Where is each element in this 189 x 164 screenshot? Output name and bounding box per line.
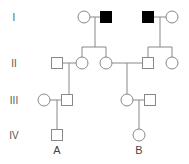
affected-male-square-icon [101, 12, 112, 23]
individual-label-a: A [53, 144, 60, 156]
female-circle-icon [166, 57, 178, 69]
pedigree-chart [0, 0, 189, 164]
male-square-icon [145, 95, 156, 106]
female-circle-icon [100, 57, 112, 69]
female-circle-icon [166, 11, 178, 23]
male-square-icon [143, 58, 154, 69]
generation-label: I [13, 12, 16, 23]
individual-label-b: B [135, 144, 142, 156]
female-circle-icon [76, 57, 88, 69]
female-circle-icon [38, 94, 50, 106]
generation-label: IV [9, 130, 18, 141]
affected-male-square-icon [143, 12, 154, 23]
female-circle-icon [121, 94, 133, 106]
female-circle-icon [133, 129, 145, 141]
male-square-icon [52, 58, 63, 69]
female-circle-icon [78, 11, 90, 23]
generation-label: III [10, 95, 18, 106]
male-square-icon [62, 95, 73, 106]
generation-label: II [11, 58, 17, 69]
male-square-icon [52, 130, 63, 141]
